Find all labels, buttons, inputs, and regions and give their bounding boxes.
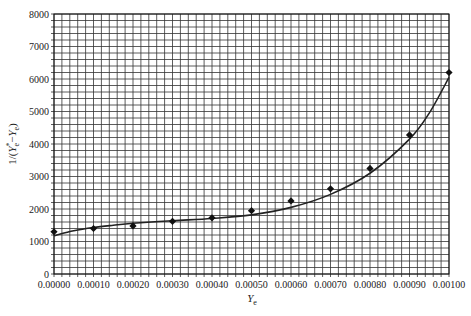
y-tick-label: 6000 xyxy=(29,74,49,85)
x-tick-labels: 0.000000.000100.000200.000300.000400.000… xyxy=(38,279,466,290)
data-point-marker xyxy=(327,185,334,192)
x-tick-label: 0.00020 xyxy=(117,279,150,290)
y-tick-label: 4000 xyxy=(29,139,49,150)
data-point-marker xyxy=(287,197,294,204)
y-axis-label: 1/(Y*e−Ye) xyxy=(5,123,21,165)
x-tick-label: 0.00050 xyxy=(235,279,268,290)
y-tick-labels: 010002000300040005000600070008000 xyxy=(29,9,49,280)
data-point-marker xyxy=(169,218,176,225)
chart: 010002000300040005000600070008000 0.0000… xyxy=(0,0,471,316)
x-tick-label: 0.00010 xyxy=(77,279,110,290)
data-point-marker xyxy=(445,69,452,76)
y-tick-label: 8000 xyxy=(29,9,49,20)
y-tick-label: 3000 xyxy=(29,171,49,182)
x-tick-label: 0.00070 xyxy=(314,279,347,290)
y-tick-label: 1000 xyxy=(29,236,49,247)
x-axis-label: Ye xyxy=(247,292,257,307)
x-tick-label: 0.00080 xyxy=(354,279,387,290)
x-tick-label: 0.00040 xyxy=(196,279,229,290)
grid xyxy=(51,14,449,277)
x-tick-label: 0.00060 xyxy=(275,279,308,290)
y-tick-label: 2000 xyxy=(29,204,49,215)
data-point-marker xyxy=(248,207,255,214)
y-tick-label: 7000 xyxy=(29,41,49,52)
y-tick-label: 0 xyxy=(44,269,49,280)
x-tick-label: 0.00000 xyxy=(38,279,71,290)
x-tick-label: 0.00090 xyxy=(393,279,426,290)
data-point-marker xyxy=(90,225,97,232)
x-tick-label: 0.00100 xyxy=(433,279,466,290)
y-tick-label: 5000 xyxy=(29,106,49,117)
x-tick-label: 0.00030 xyxy=(156,279,189,290)
